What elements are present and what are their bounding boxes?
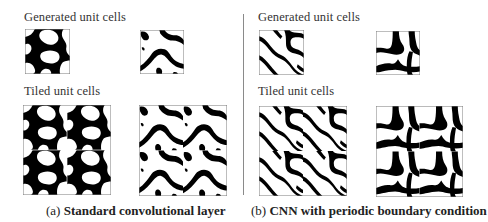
caption-a-prefix: (a) <box>46 203 60 218</box>
unit-cell-a2 <box>140 30 184 74</box>
panel-divider <box>243 14 244 195</box>
tiled-cell-b2 <box>376 106 463 197</box>
tiled-cells-label-a: Tiled unit cells <box>24 84 100 99</box>
tiled-cell-a1 <box>23 105 111 195</box>
unit-cell-a1 <box>25 29 70 74</box>
caption-b-title: CNN with periodic boundary condition <box>269 203 486 218</box>
caption-b: (b) CNN with periodic boundary condition <box>251 203 487 219</box>
tiled-cell-b1 <box>259 106 347 196</box>
unit-cell-b1 <box>259 30 304 75</box>
unit-cell-b2 <box>376 31 420 75</box>
caption-a-title: Standard convolutional layer <box>64 203 226 218</box>
caption-b-prefix: (b) <box>251 203 266 218</box>
generated-cells-label-a: Generated unit cells <box>24 10 126 25</box>
generated-cells-label-b: Generated unit cells <box>258 10 360 25</box>
caption-a: (a) Standard convolutional layer <box>46 203 225 219</box>
tiled-cells-label-b: Tiled unit cells <box>258 84 334 99</box>
tiled-cell-a2 <box>139 105 227 196</box>
